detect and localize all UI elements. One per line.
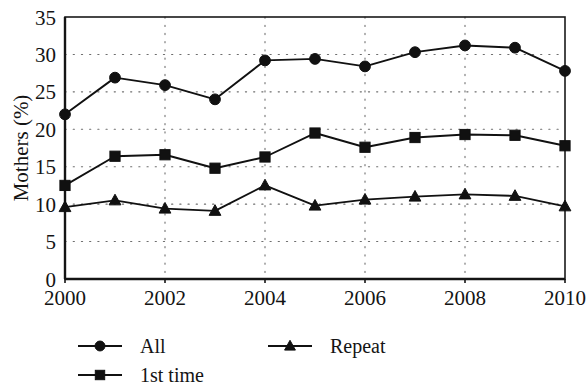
data-point-square (410, 132, 420, 142)
data-point-circle (160, 80, 171, 91)
data-point-circle (560, 65, 571, 76)
data-point-circle (510, 42, 521, 53)
data-point-square (160, 150, 170, 160)
y-axis-tick-label: 35 (35, 6, 56, 30)
x-axis-tick-label: 2010 (544, 286, 586, 310)
data-point-circle (60, 109, 71, 120)
data-point-square (510, 130, 520, 140)
data-point-square (95, 370, 104, 379)
chart-figure: 05101520253035 200020022004200620082010 … (0, 0, 588, 385)
data-point-circle (460, 40, 471, 51)
y-axis-title: Mothers (%) (9, 95, 33, 202)
data-point-circle (95, 341, 105, 351)
data-point-circle (110, 72, 121, 83)
line-chart: 05101520253035 200020022004200620082010 … (0, 0, 588, 385)
data-point-square (110, 151, 120, 161)
y-axis-tick-label: 20 (35, 118, 56, 142)
y-axis-tick-label: 5 (46, 230, 57, 254)
x-axis-tick-label: 2008 (444, 286, 486, 310)
x-axis-tick-label: 2004 (244, 286, 287, 310)
y-axis-tick-label: 30 (35, 43, 56, 67)
data-point-square (210, 163, 220, 173)
y-axis-tick-label: 25 (35, 80, 56, 104)
x-axis-tick-label: 2002 (144, 286, 186, 310)
chart-background (0, 0, 588, 385)
data-point-square (460, 129, 470, 139)
y-axis-tick-label: 15 (35, 155, 56, 179)
data-point-circle (410, 47, 421, 58)
data-point-circle (210, 94, 221, 105)
x-axis-tick-label: 2000 (44, 286, 86, 310)
legend-label: All (140, 335, 166, 357)
data-point-square (360, 142, 370, 152)
data-point-square (60, 180, 70, 190)
data-point-circle (360, 61, 371, 72)
x-axis-tick-label: 2006 (344, 286, 386, 310)
data-point-square (560, 141, 570, 151)
data-point-circle (260, 55, 271, 66)
data-point-square (310, 128, 320, 138)
data-point-circle (310, 54, 321, 65)
data-point-square (260, 152, 270, 162)
legend-label: Repeat (330, 335, 386, 358)
legend-label: 1st time (140, 364, 204, 385)
y-axis-tick-label: 10 (35, 193, 56, 217)
